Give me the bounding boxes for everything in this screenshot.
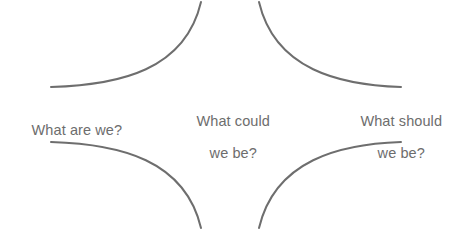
diagram-canvas: What are we? What could we be? What shou… — [0, 0, 449, 231]
label-what-are-we: What are we? — [15, 106, 122, 154]
label-what-could-we-be: What could we be? — [175, 97, 275, 177]
top-right-arc — [259, 2, 401, 87]
label-what-should-we-be-line2: we be? — [378, 145, 425, 161]
top-left-arc — [51, 2, 201, 87]
label-what-are-we-text: What are we? — [32, 122, 123, 138]
label-what-could-we-be-line1: What could — [196, 113, 270, 129]
label-what-should-we-be: What should we be? — [343, 97, 443, 177]
label-what-should-we-be-line1: What should — [360, 113, 442, 129]
label-what-could-we-be-line2: we be? — [210, 145, 257, 161]
